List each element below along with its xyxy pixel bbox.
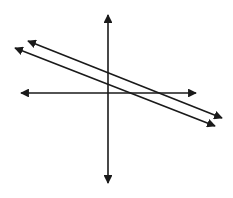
lower-parallel-line bbox=[15, 48, 215, 126]
upper-parallel-line bbox=[28, 41, 222, 118]
parallel-lines-diagram bbox=[0, 0, 233, 198]
